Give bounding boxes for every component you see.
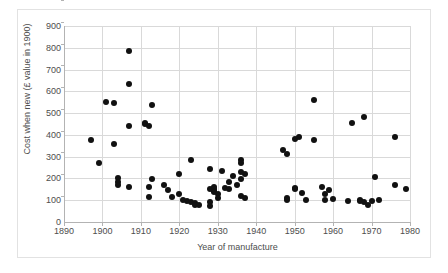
- x-tick-label: 1940: [236, 227, 276, 236]
- data-point: [126, 123, 132, 129]
- y-tick-mark: [61, 109, 64, 110]
- y-axis-line: [64, 26, 65, 223]
- gridline-horizontal: [64, 48, 410, 49]
- data-point: [238, 176, 244, 182]
- x-tick-mark: [64, 223, 65, 226]
- gridline-horizontal: [64, 157, 410, 158]
- data-point: [403, 186, 409, 192]
- y-tick-mark: [61, 87, 64, 88]
- data-point: [311, 97, 317, 103]
- data-point: [299, 190, 305, 196]
- data-point: [319, 184, 325, 190]
- data-point: [146, 194, 152, 200]
- x-tick-mark: [256, 223, 257, 226]
- x-tick-mark: [410, 223, 411, 226]
- data-point: [296, 134, 302, 140]
- x-tick-label: 1950: [275, 227, 315, 236]
- data-point: [349, 120, 355, 126]
- y-tick-mark: [61, 174, 64, 175]
- x-tick-label: 1890: [44, 227, 84, 236]
- x-tick-mark: [179, 223, 180, 226]
- data-point: [372, 174, 378, 180]
- data-point: [146, 123, 152, 129]
- data-point: [176, 191, 182, 197]
- data-point: [303, 197, 309, 203]
- data-point: [149, 176, 155, 182]
- y-axis-title: Cost when new (£ value in 1900): [22, 9, 32, 169]
- scatter-chart-figure: 0100200300400500600700800900 18901900191…: [0, 0, 448, 273]
- x-tick-label: 1930: [198, 227, 238, 236]
- data-point: [234, 182, 240, 188]
- data-point: [207, 203, 213, 209]
- gridline-horizontal: [64, 26, 410, 27]
- y-tick-mark: [61, 152, 64, 153]
- x-tick-label: 1970: [352, 227, 392, 236]
- data-point: [284, 197, 290, 203]
- x-tick-label: 1980: [390, 227, 430, 236]
- x-tick-mark: [218, 223, 219, 226]
- data-point: [238, 160, 244, 166]
- data-point: [242, 171, 248, 177]
- data-point: [126, 48, 132, 54]
- x-tick-mark: [102, 223, 103, 226]
- data-point: [226, 179, 232, 185]
- data-point: [322, 197, 328, 203]
- data-point: [219, 168, 225, 174]
- data-point: [146, 184, 152, 190]
- gridline-vertical: [333, 26, 334, 222]
- gridline-vertical: [102, 26, 103, 222]
- gridline-vertical: [256, 26, 257, 222]
- data-point: [369, 198, 375, 204]
- data-point: [392, 182, 398, 188]
- gridline-vertical: [410, 26, 411, 222]
- y-tick-mark: [61, 22, 64, 23]
- x-tick-mark: [372, 223, 373, 226]
- x-tick-label: 1920: [159, 227, 199, 236]
- gridline-horizontal: [64, 135, 410, 136]
- data-point: [311, 137, 317, 143]
- data-point: [103, 99, 109, 105]
- x-tick-label: 1960: [313, 227, 353, 236]
- data-point: [330, 196, 336, 202]
- data-point: [392, 134, 398, 140]
- data-point: [376, 197, 382, 203]
- data-point: [292, 186, 298, 192]
- y-tick-mark: [61, 44, 64, 45]
- data-point: [345, 198, 351, 204]
- x-tick-label: 1900: [82, 227, 122, 236]
- data-point: [115, 182, 121, 188]
- x-axis-line: [64, 222, 411, 223]
- x-tick-mark: [333, 223, 334, 226]
- data-point: [88, 137, 94, 143]
- x-axis-tick-labels: 1890190019101920193019401950196019701980: [64, 227, 411, 241]
- data-point: [207, 166, 213, 172]
- data-point: [242, 195, 248, 201]
- y-tick-mark: [61, 65, 64, 66]
- data-point: [96, 160, 102, 166]
- data-point: [149, 102, 155, 108]
- data-point: [111, 100, 117, 106]
- data-point: [176, 171, 182, 177]
- x-tick-mark: [141, 223, 142, 226]
- x-tick-label: 1910: [121, 227, 161, 236]
- gridline-horizontal: [64, 70, 410, 71]
- y-tick-label: 200: [21, 174, 61, 183]
- x-tick-mark: [295, 223, 296, 226]
- data-point: [165, 187, 171, 193]
- data-point: [226, 186, 232, 192]
- y-tick-label: 100: [21, 196, 61, 205]
- data-point: [284, 151, 290, 157]
- data-point: [126, 184, 132, 190]
- y-tick-mark: [61, 131, 64, 132]
- data-point: [196, 202, 202, 208]
- gridline-horizontal: [64, 113, 410, 114]
- y-tick-mark: [61, 196, 64, 197]
- gridline-horizontal: [64, 91, 410, 92]
- data-point: [326, 187, 332, 193]
- data-point: [126, 81, 132, 87]
- data-point: [361, 114, 367, 120]
- gridline-vertical: [295, 26, 296, 222]
- data-point: [111, 141, 117, 147]
- y-tick-mark: [61, 0, 64, 1]
- data-point: [188, 157, 194, 163]
